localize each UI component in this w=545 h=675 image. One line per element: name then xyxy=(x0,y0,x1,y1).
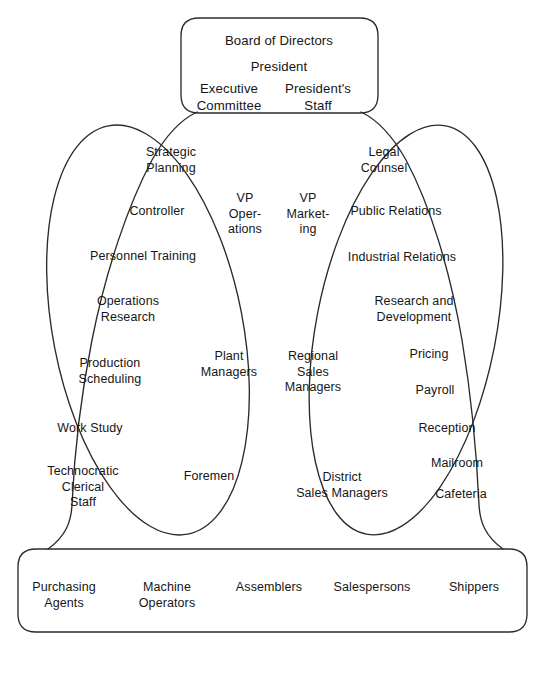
right-item-payroll: Payroll xyxy=(416,383,455,399)
right-item-legal-counsel: Legal Counsel xyxy=(361,145,408,176)
right-item-industrial-relations: Industrial Relations xyxy=(348,250,456,266)
left-item-controller: Controller xyxy=(129,204,184,220)
left-item-strategic-planning: Strategic Planning xyxy=(146,145,196,176)
right-item-mailroom: Mailroom xyxy=(431,456,483,472)
top-item-executive-committee: Executive Committee xyxy=(197,81,262,114)
top-item-board-of-directors: Board of Directors xyxy=(225,33,333,50)
left-item-technocratic-clerical-staff: Technocratic Clerical Staff xyxy=(47,464,118,511)
left-item-operations-research: Operations Research xyxy=(97,294,159,325)
right-item-reception: Reception xyxy=(418,421,475,437)
left-item-work-study: Work Study xyxy=(57,421,122,437)
center-item-plant-managers: Plant Managers xyxy=(201,349,257,380)
bottom-item-purchasing-agents: Purchasing Agents xyxy=(32,580,96,611)
center-item-vp-operations: VP Oper- ations xyxy=(228,191,262,238)
center-item-district-sales-managers: District Sales Managers xyxy=(296,470,388,501)
top-item-president: President xyxy=(251,59,308,76)
center-item-regional-sales-managers: Regional Sales Managers xyxy=(285,349,341,396)
bottom-item-assemblers: Assemblers xyxy=(236,580,302,596)
org-chart-diagram: Board of Directors President Executive C… xyxy=(0,0,545,675)
bottom-item-salespersons: Salespersons xyxy=(334,580,411,596)
left-item-production-scheduling: Production Scheduling xyxy=(79,356,142,387)
right-item-research-and-development: Research and Development xyxy=(374,294,453,325)
right-item-public-relations: Public Relations xyxy=(350,204,441,220)
center-item-vp-marketing: VP Market- ing xyxy=(286,191,329,238)
bottom-item-shippers: Shippers xyxy=(449,580,499,596)
right-item-pricing: Pricing xyxy=(410,347,449,363)
org-chart-shapes xyxy=(0,0,545,675)
right-item-cafeteria: Cafeteria xyxy=(435,487,487,503)
center-item-foremen: Foremen xyxy=(184,469,235,485)
left-item-personnel-training: Personnel Training xyxy=(90,249,196,265)
top-item-presidents-staff: President's Staff xyxy=(285,81,351,114)
bottom-item-machine-operators: Machine Operators xyxy=(139,580,195,611)
